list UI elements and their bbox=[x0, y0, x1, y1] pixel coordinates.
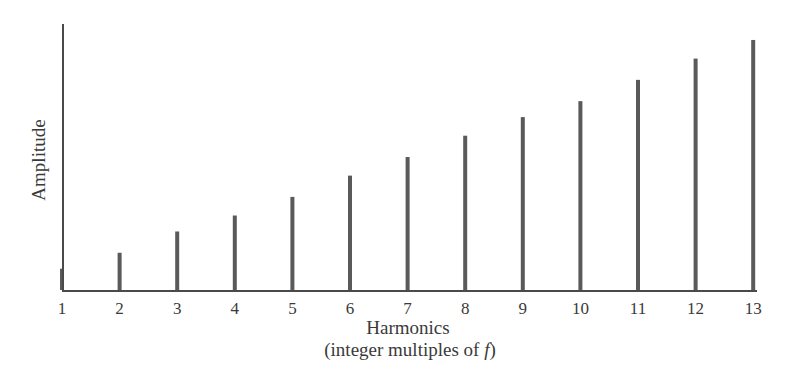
x-tick-label-7: 7 bbox=[403, 299, 412, 318]
x-tick-label-3: 3 bbox=[173, 299, 182, 318]
bar-harmonic-2 bbox=[118, 253, 122, 290]
x-tick-label-11: 11 bbox=[630, 299, 646, 318]
x-tick-labels: 12345678910111213 bbox=[58, 299, 762, 318]
bar-harmonic-10 bbox=[578, 101, 582, 290]
x-tick-label-9: 9 bbox=[519, 299, 528, 318]
bar-harmonic-9 bbox=[521, 117, 525, 290]
bar-harmonic-11 bbox=[636, 80, 640, 290]
bar-harmonic-13 bbox=[751, 40, 755, 290]
x-axis-sublabel: (integer multiples of f) bbox=[324, 339, 496, 361]
harmonics-chart: 12345678910111213 Amplitude Harmonics (i… bbox=[0, 0, 787, 378]
x-tick-label-5: 5 bbox=[288, 299, 297, 318]
bar-harmonic-8 bbox=[463, 136, 467, 290]
bar-harmonic-6 bbox=[348, 176, 352, 290]
x-axis-sublabel-end: ) bbox=[489, 339, 495, 361]
x-tick-label-1: 1 bbox=[58, 299, 67, 318]
x-axis-label: Harmonics bbox=[366, 317, 449, 338]
x-tick-label-8: 8 bbox=[461, 299, 470, 318]
bar-harmonic-4 bbox=[233, 216, 237, 290]
x-tick-label-6: 6 bbox=[346, 299, 355, 318]
y-axis-label: Amplitude bbox=[28, 119, 49, 200]
bar-harmonic-12 bbox=[694, 59, 698, 290]
x-axis-sublabel-text: (integer multiples of bbox=[324, 339, 484, 361]
x-tick-label-12: 12 bbox=[687, 299, 704, 318]
x-tick-label-10: 10 bbox=[572, 299, 589, 318]
x-tick-label-2: 2 bbox=[115, 299, 124, 318]
x-tick-label-13: 13 bbox=[745, 299, 762, 318]
bar-harmonic-5 bbox=[290, 197, 294, 290]
bar-harmonic-7 bbox=[406, 157, 410, 290]
x-tick-label-4: 4 bbox=[231, 299, 240, 318]
bar-harmonic-3 bbox=[175, 231, 179, 290]
bars-group bbox=[60, 40, 755, 290]
